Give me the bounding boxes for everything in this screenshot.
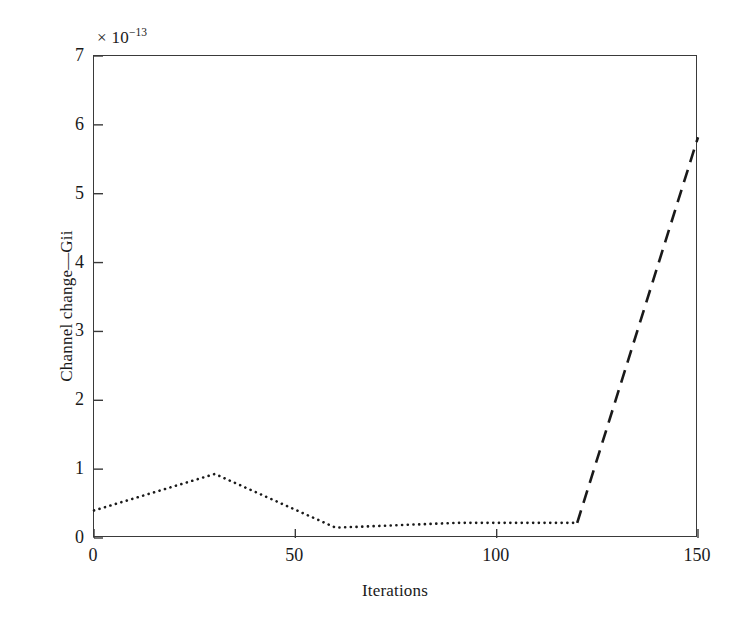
data-line-dotted-segment — [94, 474, 577, 528]
data-line-dashed-segment — [577, 137, 698, 523]
chart-figure: × 10−13 0 1 2 3 4 5 6 7 Channel change—G… — [0, 0, 741, 622]
x-axis-ticks — [94, 529, 698, 538]
y-tick-label: 1 — [54, 459, 84, 477]
y-tick-label: 7 — [54, 46, 84, 64]
x-tick-label: 100 — [466, 546, 526, 564]
y-tick-label: 6 — [54, 115, 84, 133]
x-axis-title: Iterations — [93, 581, 697, 601]
x-tick-label: 50 — [264, 546, 324, 564]
x-tick-label: 0 — [63, 546, 123, 564]
y-tick-label: 0 — [54, 528, 84, 546]
plot-area — [93, 55, 697, 537]
y-axis-title: Channel change—Gii — [57, 156, 77, 456]
y-axis-multiplier-exponent: −13 — [129, 26, 147, 38]
y-axis-multiplier: × 10−13 — [97, 27, 147, 46]
y-axis-multiplier-base: × 10 — [97, 28, 129, 47]
x-axis-tick-labels: 0 50 100 150 — [93, 546, 697, 572]
plot-canvas — [94, 56, 698, 538]
x-tick-label: 150 — [667, 546, 727, 564]
y-axis-ticks — [94, 56, 103, 538]
